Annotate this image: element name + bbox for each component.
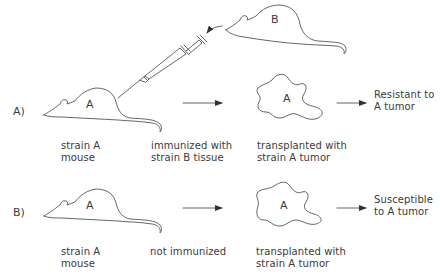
caption-treatment-row-b: not immunized <box>150 246 226 258</box>
syringe <box>118 35 207 98</box>
outcome-row-b: Susceptible to A tumor <box>374 194 433 218</box>
tumor-a-label-row-a: A <box>283 92 291 105</box>
mouse-b-donor <box>226 5 346 54</box>
transfer-arrow <box>207 26 222 33</box>
caption-mouse-row-a: strain A mouse <box>61 140 100 164</box>
row-label-a: A) <box>13 105 25 118</box>
caption-mouse-row-b: strain A mouse <box>61 246 100 270</box>
mouse-a-row-a <box>44 88 162 132</box>
mouse-a-row-b <box>44 189 162 233</box>
caption-treatment-row-a: immunized with strain B tissue <box>151 140 232 164</box>
row-label-b: B) <box>13 206 25 219</box>
caption-transplant-row-a: transplanted with strain A tumor <box>257 140 347 164</box>
caption-transplant-row-b: transplanted with strain A tumor <box>256 246 346 270</box>
diagram-canvas <box>0 0 440 276</box>
tumor-a-label-row-b: A <box>280 199 288 212</box>
outcome-row-a: Resistant to A tumor <box>374 89 435 113</box>
mouse-b-label: B <box>271 13 279 26</box>
mouse-a-label-row-a: A <box>86 98 94 111</box>
tumor-row-b <box>257 182 322 226</box>
mouse-a-label-row-b: A <box>86 199 94 212</box>
